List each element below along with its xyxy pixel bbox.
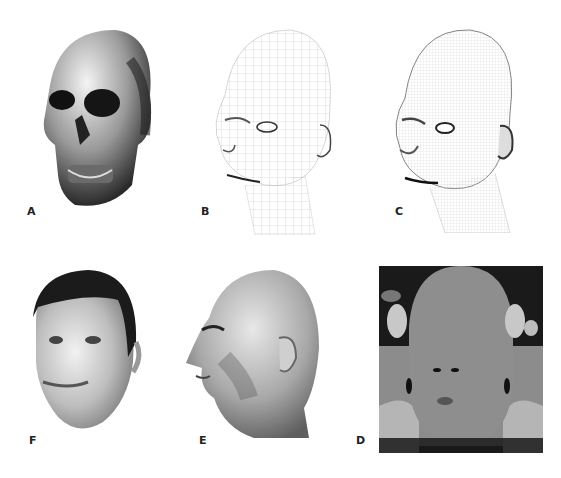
textured-head-hair-image xyxy=(28,262,143,437)
panel-label-d: D xyxy=(356,434,365,447)
skull-image xyxy=(20,25,170,215)
panel-label-c: C xyxy=(395,205,403,218)
texture-map-image xyxy=(379,266,543,453)
panel-label-a: A xyxy=(27,205,36,218)
wireframe-dense-image xyxy=(390,28,540,233)
panel-b-wireframe-coarse xyxy=(205,25,355,235)
panel-d-texture-map xyxy=(379,266,543,453)
panel-e-textured-head-profile xyxy=(184,268,324,440)
textured-head-profile-image xyxy=(184,268,324,440)
panel-label-f: F xyxy=(29,434,37,447)
wireframe-coarse-image xyxy=(205,25,355,235)
panel-label-b: B xyxy=(201,205,209,218)
panel-c-wireframe-dense xyxy=(390,28,540,233)
panel-f-textured-head-hair xyxy=(28,262,143,437)
panel-a-skull xyxy=(20,25,170,215)
panel-label-e: E xyxy=(199,434,207,447)
